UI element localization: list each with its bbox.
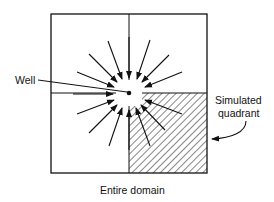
well-marker xyxy=(127,91,132,96)
simulated-quadrant-label-2: quadrant xyxy=(218,107,259,119)
diagram-caption: Entire domain xyxy=(100,184,165,196)
quadrant-pointer-arrow xyxy=(212,121,246,139)
well-label: Well xyxy=(15,74,35,86)
simulated-quadrant-label-1: Simulated xyxy=(215,94,262,106)
